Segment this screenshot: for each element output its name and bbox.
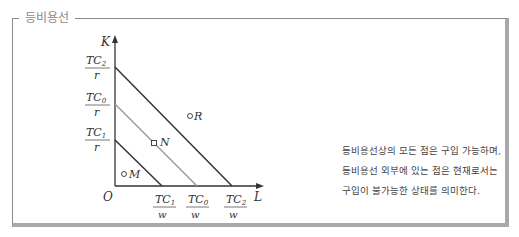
svg-text:w: w [191, 209, 200, 220]
point-n: N [152, 136, 171, 149]
x-intercept-tc1-w: TC1 w [153, 193, 176, 220]
x-axis-arrow-icon [256, 183, 264, 189]
square-marker-icon [152, 141, 157, 146]
axes: K L O [100, 35, 264, 204]
svg-text:R: R [193, 110, 202, 123]
y-axis-arrow-icon [112, 35, 118, 43]
svg-text:w: w [229, 209, 238, 220]
y-intercept-tc0-r: TC0 r [85, 91, 110, 119]
svg-text:TC2: TC2 [226, 193, 247, 207]
circle-marker-icon [122, 172, 127, 177]
point-m: M [122, 168, 142, 181]
point-r: R [188, 110, 203, 123]
svg-text:r: r [94, 141, 100, 154]
svg-text:r: r [94, 69, 100, 82]
svg-text:r: r [94, 106, 100, 119]
svg-text:TC2: TC2 [86, 54, 107, 68]
x-axis-label: L [253, 190, 262, 204]
svg-text:TC1: TC1 [155, 193, 175, 207]
description-text: 등비용선상의 모든 점은 구입 가능하며, 등비용선 외부에 있는 점은 현재로… [342, 141, 502, 201]
isocost-diagram: K L O TC2 r TC0 r TC1 r TC1 w TC0 w TC2 … [0, 0, 519, 237]
svg-text:TC1: TC1 [86, 126, 106, 140]
svg-text:TC0: TC0 [188, 193, 209, 207]
svg-text:M: M [128, 168, 141, 181]
svg-text:w: w [158, 209, 167, 220]
origin-label: O [103, 190, 113, 204]
x-intercept-tc0-w: TC0 w [186, 193, 209, 220]
x-intercept-tc2-w: TC2 w [224, 193, 247, 220]
y-intercept-tc2-r: TC2 r [85, 54, 110, 82]
y-axis-label: K [100, 35, 111, 49]
svg-text:TC0: TC0 [86, 91, 107, 105]
svg-text:N: N [159, 136, 170, 149]
circle-marker-icon [188, 114, 193, 119]
y-intercept-tc1-r: TC1 r [85, 126, 110, 154]
